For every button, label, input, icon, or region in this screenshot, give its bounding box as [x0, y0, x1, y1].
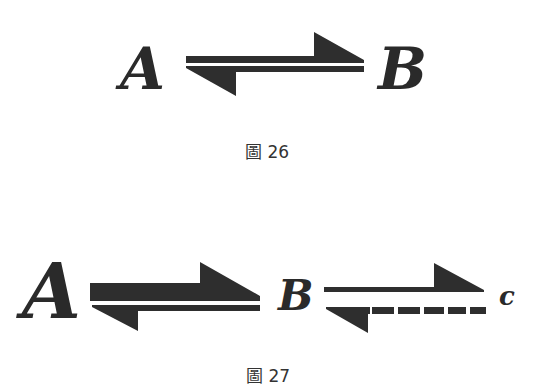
figure-27-caption: 圖 27 [246, 362, 290, 385]
species-b-label: B [278, 275, 314, 317]
species-c-label: c [499, 283, 515, 309]
equilibrium-arrows-icon [0, 0, 543, 385]
